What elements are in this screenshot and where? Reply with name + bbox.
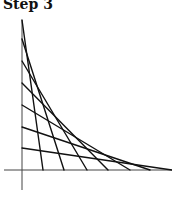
curve-stitching-diagram [0,0,172,199]
stitch-line [22,83,108,170]
stitch-lines [22,20,172,170]
axes [4,20,172,190]
stitch-line [22,148,172,170]
